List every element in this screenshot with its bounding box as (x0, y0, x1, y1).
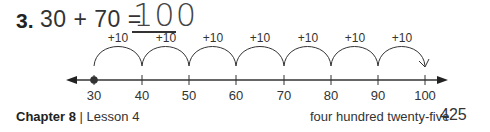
tick-label: 100 (414, 88, 436, 103)
tick-label: 40 (135, 88, 149, 103)
jump-label: +10 (250, 31, 270, 45)
jump-label: +10 (392, 31, 412, 45)
tick-label: 80 (324, 88, 338, 103)
tick-label: 90 (371, 88, 385, 103)
jump-label: +10 (156, 31, 176, 45)
tick-label: 70 (277, 88, 291, 103)
tick-label: 50 (182, 88, 196, 103)
jump-label: +10 (203, 31, 223, 45)
right-arrow-icon (437, 76, 448, 84)
page-number: 425 (440, 106, 467, 124)
jump-label: +10 (298, 31, 318, 45)
page-number-words: four hundred twenty-five (310, 109, 449, 124)
jump-label: +10 (345, 31, 365, 45)
footer-chapter-lesson: Chapter 8 | Lesson 4 (16, 109, 139, 124)
start-point-dot (90, 76, 98, 84)
footer-separator: | (80, 109, 83, 124)
jump-label: +10 (108, 31, 128, 45)
tick-label: 60 (229, 88, 243, 103)
left-arrow-icon (66, 76, 77, 84)
tick-label: 30 (87, 88, 101, 103)
chapter-label: Chapter 8 (16, 109, 76, 124)
lesson-label: Lesson 4 (87, 109, 140, 124)
